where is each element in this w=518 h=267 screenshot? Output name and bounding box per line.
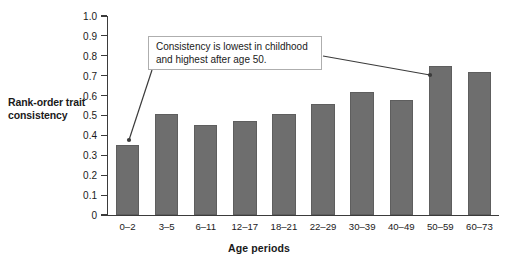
bar <box>311 104 334 215</box>
bar <box>194 125 217 215</box>
x-axis-tick-label: 12–17 <box>225 221 264 232</box>
bar <box>390 100 413 215</box>
y-axis-tick-label: 0.9 <box>83 30 97 41</box>
bar-slot <box>468 16 491 215</box>
bar <box>468 72 491 215</box>
bar <box>233 121 256 215</box>
y-axis-tick: 0.3 <box>101 155 107 156</box>
bar-chart: Rank-order trait consistency 1.00.90.80.… <box>0 0 518 267</box>
y-axis-tick-label: 0.6 <box>83 90 97 101</box>
y-axis-tick: 0.2 <box>101 175 107 176</box>
annotation-line-1: Consistency is lowest in childhood <box>156 41 314 54</box>
x-axis-tick-label: 6–11 <box>186 221 225 232</box>
x-axis-tick-label: 50–59 <box>421 221 460 232</box>
annotation-line-2: and highest after age 50. <box>156 54 314 67</box>
x-axis-tick-label: 0–2 <box>108 221 147 232</box>
x-axis-tick-label: 40–49 <box>382 221 421 232</box>
bar-slot <box>429 16 452 215</box>
x-axis-tick-label: 30–39 <box>343 221 382 232</box>
y-axis-tick: 0.1 <box>101 195 107 196</box>
x-axis-title: Age periods <box>0 242 518 254</box>
y-axis-tick-label: 0.5 <box>83 110 97 121</box>
y-axis-tick-label: 0.2 <box>83 170 97 181</box>
y-axis-tick-label: 0.8 <box>83 50 97 61</box>
bar-slot <box>390 16 413 215</box>
bar <box>116 145 139 215</box>
y-axis-tick-label: 0.4 <box>83 130 97 141</box>
y-axis-tick: 1.0 <box>101 15 107 16</box>
y-axis-tick: 0.7 <box>101 75 107 76</box>
x-axis-tick-label: 60–73 <box>460 221 499 232</box>
y-axis-tick-label: 1.0 <box>83 10 97 21</box>
bar <box>155 114 178 215</box>
bar-slot <box>350 16 373 215</box>
y-axis-tick: 0.5 <box>101 115 107 116</box>
y-axis-tick: 0.6 <box>101 95 107 96</box>
y-axis-tick: 0.8 <box>101 55 107 56</box>
y-axis-title: Rank-order trait consistency <box>8 96 86 122</box>
bar <box>272 114 295 215</box>
bar-slot <box>116 16 139 215</box>
x-axis-tick-label: 18–21 <box>264 221 303 232</box>
y-axis-tick-label: 0.7 <box>83 70 97 81</box>
bar <box>429 66 452 215</box>
x-axis-tick-label: 22–29 <box>304 221 343 232</box>
y-axis-tick-label: 0.1 <box>83 190 97 201</box>
bar <box>350 92 373 215</box>
y-axis-tick: 0.9 <box>101 35 107 36</box>
y-axis-tick: 0 <box>101 214 107 215</box>
y-axis-tick-label: 0.3 <box>83 150 97 161</box>
x-axis-tick-label: 3–5 <box>147 221 186 232</box>
y-axis-tick: 0.4 <box>101 135 107 136</box>
annotation-callout: Consistency is lowest in childhood and h… <box>148 36 322 70</box>
x-axis-line <box>107 215 499 216</box>
y-axis-tick-label: 0 <box>91 209 97 220</box>
